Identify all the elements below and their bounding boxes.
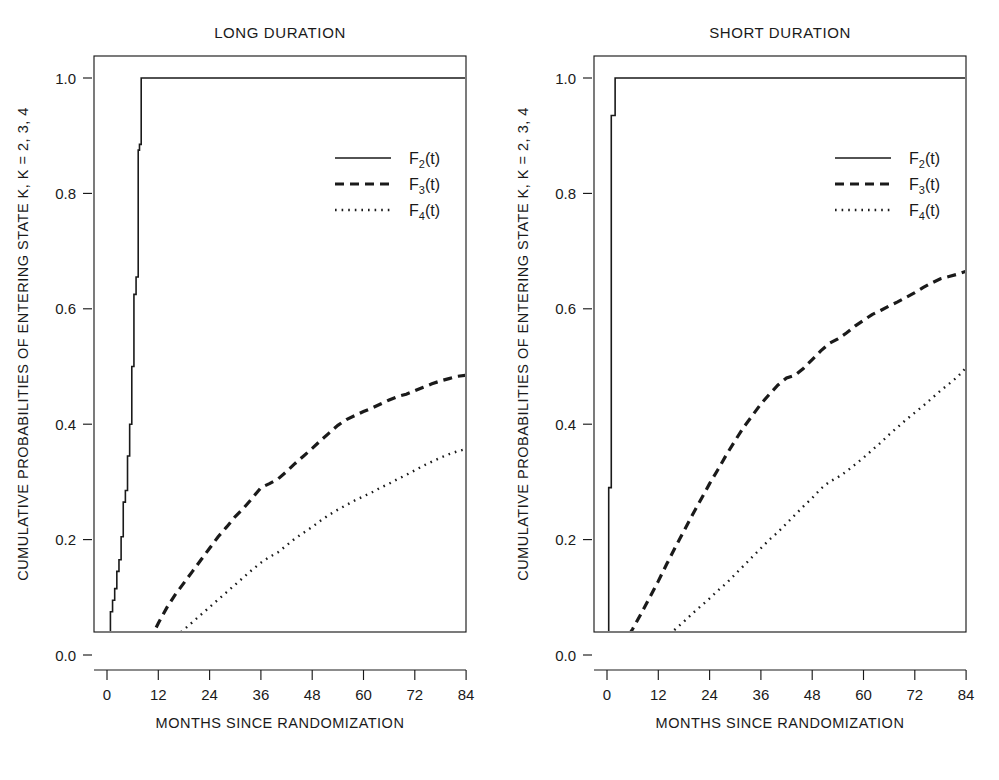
y-axis-tick-label: 0.8 (555, 185, 576, 202)
plot-frame (94, 56, 466, 632)
x-axis-title: MONTHS SINCE RANDOMIZATION (156, 715, 405, 731)
x-axis-tick-label: 0 (103, 686, 111, 703)
x-axis-tick-label: 36 (752, 686, 769, 703)
series-f4t (607, 368, 966, 655)
y-axis-tick-label: 0.8 (55, 185, 76, 202)
x-axis-title: MONTHS SINCE RANDOMIZATION (655, 715, 904, 731)
y-axis: 0.00.20.40.60.81.0 (555, 70, 592, 664)
x-axis-tick-label: 36 (253, 686, 270, 703)
y-axis-tick-label: 0.2 (555, 531, 576, 548)
x-axis: 012243648607284 (594, 670, 974, 703)
x-axis-tick-label: 24 (701, 686, 718, 703)
y-axis-title: CUMULATIVE PROBABILITIES OF ENTERING STA… (15, 107, 31, 581)
y-axis-tick-label: 1.0 (555, 70, 576, 87)
y-axis-tick-label: 0.0 (555, 647, 576, 664)
series-f3t (107, 375, 466, 655)
y-axis: 0.00.20.40.60.81.0 (55, 70, 92, 664)
x-axis-tick-label: 0 (602, 686, 610, 703)
y-axis-tick-label: 0.6 (55, 300, 76, 317)
legend: F2(t)F3(t)F4(t) (835, 150, 940, 222)
legend-label: F3(t) (409, 176, 440, 196)
x-axis-tick-label: 84 (957, 686, 974, 703)
x-axis-tick-label: 84 (458, 686, 475, 703)
x-axis-tick-label: 72 (906, 686, 923, 703)
panel-title: LONG DURATION (214, 24, 346, 41)
x-axis-tick-label: 48 (304, 686, 321, 703)
x-axis-tick-label: 60 (355, 686, 372, 703)
figure-root: LONG DURATION0.00.20.40.60.81.0012243648… (0, 0, 999, 780)
x-axis-tick-label: 24 (201, 686, 218, 703)
legend-label: F4(t) (909, 202, 940, 222)
y-axis-tick-label: 0.0 (55, 647, 76, 664)
legend: F2(t)F3(t)F4(t) (335, 150, 440, 222)
x-axis: 012243648607284 (94, 670, 474, 703)
legend-label: F4(t) (409, 202, 440, 222)
chart-panel: SHORT DURATION0.00.20.40.60.81.001224364… (500, 0, 999, 780)
y-axis-tick-label: 0.2 (55, 531, 76, 548)
y-axis-tick-label: 0.4 (555, 416, 576, 433)
y-axis-tick-label: 0.6 (555, 300, 576, 317)
legend-label: F2(t) (909, 150, 940, 170)
legend-label: F3(t) (909, 176, 940, 196)
panel-title: SHORT DURATION (709, 24, 851, 41)
chart-panel: LONG DURATION0.00.20.40.60.81.0012243648… (0, 0, 500, 780)
y-axis-tick-label: 0.4 (55, 416, 76, 433)
legend-label: F2(t) (409, 150, 440, 170)
series-f4t (107, 449, 466, 655)
y-axis-tick-label: 1.0 (55, 70, 76, 87)
series-f3t (607, 271, 966, 655)
x-axis-tick-label: 12 (649, 686, 666, 703)
x-axis-tick-label: 48 (803, 686, 820, 703)
y-axis-title: CUMULATIVE PROBABILITIES OF ENTERING STA… (515, 107, 531, 581)
plot-frame (594, 56, 966, 632)
x-axis-tick-label: 72 (406, 686, 423, 703)
x-axis-tick-label: 60 (855, 686, 872, 703)
x-axis-tick-label: 12 (150, 686, 167, 703)
